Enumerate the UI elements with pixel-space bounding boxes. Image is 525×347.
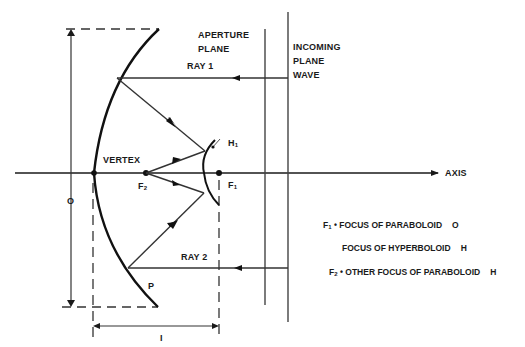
f2-subscript: 2	[144, 185, 148, 191]
aperture-plane-label: APERTURE PLANE	[198, 28, 249, 56]
h1-letter: H	[228, 138, 235, 148]
axis-label: AXIS	[445, 168, 467, 178]
h1-point	[211, 145, 214, 148]
legend-item-f2: F2 • OTHER FOCUS OF PARABOLOIDH	[329, 267, 496, 277]
incoming-label-line2: PLANE	[293, 54, 341, 68]
dimension-o	[62, 29, 159, 307]
legend-tag: O	[452, 220, 459, 230]
vertex-point	[91, 170, 97, 176]
legend-text: OTHER FOCUS OF PARABOLOID	[345, 267, 480, 277]
legend-separator: •	[334, 220, 337, 230]
legend-text: FOCUS OF HYPERBOLOID	[342, 243, 451, 253]
aperture-plane-label-line1: APERTURE	[198, 28, 249, 42]
f1-subscript: 1	[234, 184, 238, 190]
legend-item-hyperboloid-focus: FOCUS OF HYPERBOLOIDH	[342, 243, 467, 253]
legend-subscript: 1	[328, 224, 331, 230]
incoming-label-line1: INCOMING	[293, 40, 341, 54]
legend-separator: •	[340, 267, 343, 277]
h1-label: H1	[228, 138, 238, 148]
f2-label: F2	[138, 181, 147, 191]
legend-subscript: 2	[334, 271, 337, 277]
legend-text: FOCUS OF PARABOLOID	[339, 220, 442, 230]
f1-label: F1	[228, 180, 237, 190]
dim-o-label: O	[67, 196, 74, 206]
ray-1	[117, 75, 288, 173]
f1-focus-point	[216, 170, 222, 176]
paraboloid-reflector	[94, 29, 159, 307]
aperture-plane-label-line2: PLANE	[198, 42, 249, 56]
h1-subscript: 1	[235, 142, 239, 148]
ray-1-label: RAY 1	[187, 61, 214, 71]
incoming-label-line3: WAVE	[293, 68, 341, 82]
legend-tag: H	[461, 243, 467, 253]
legend-tag: H	[490, 267, 496, 277]
vertex-label: VERTEX	[103, 155, 140, 165]
incoming-plane-wave-label: INCOMING PLANE WAVE	[293, 40, 341, 82]
dim-i-label: I	[160, 333, 163, 343]
p-label: P	[148, 281, 154, 291]
ray-2-label: RAY 2	[181, 252, 208, 262]
legend-item-f1: F1 • FOCUS OF PARABOLOIDO	[323, 220, 459, 230]
